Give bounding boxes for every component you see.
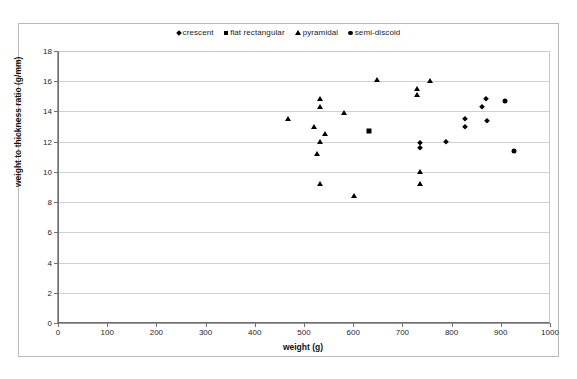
- y-tick-mark: [54, 51, 58, 52]
- y-tick-mark: [54, 172, 58, 173]
- data-point-pyramidal: [285, 116, 291, 121]
- y-tick-label: 4: [26, 258, 52, 267]
- data-point-flat-rectangular: [367, 129, 372, 134]
- x-tick-label: 200: [150, 328, 163, 337]
- x-tick-label: 900: [494, 328, 507, 337]
- y-tick-label: 18: [26, 47, 52, 56]
- x-tick-mark: [206, 323, 207, 327]
- data-point-crescent: [462, 116, 468, 122]
- y-tick-label: 6: [26, 228, 52, 237]
- legend-item-semi-discoid: semi-discoid: [348, 28, 400, 37]
- legend-item-crescent: crescent: [177, 28, 214, 37]
- y-tick-mark: [54, 232, 58, 233]
- y-tick-mark: [54, 142, 58, 143]
- y-tick-label: 14: [26, 107, 52, 116]
- legend-label: flat rectangular: [228, 28, 285, 37]
- grid-line: [58, 263, 550, 264]
- y-tick-mark: [54, 202, 58, 203]
- data-point-pyramidal: [427, 78, 433, 83]
- data-point-pyramidal: [314, 151, 320, 156]
- y-tick-mark: [54, 263, 58, 264]
- x-tick-label: 0: [56, 328, 60, 337]
- grid-line: [58, 142, 550, 143]
- grid-line: [58, 51, 550, 52]
- grid-line: [58, 172, 550, 173]
- plot-border: [58, 51, 550, 323]
- y-axis-title: weight to thickness ratio (g/mm): [13, 57, 23, 187]
- data-point-crescent: [417, 145, 423, 151]
- data-point-pyramidal: [417, 181, 423, 186]
- x-tick-mark: [501, 323, 502, 327]
- x-tick-label: 800: [445, 328, 458, 337]
- data-point-crescent: [484, 117, 490, 123]
- chart-figure: crescentflat rectangularpyramidalsemi-di…: [18, 23, 559, 357]
- grid-line: [58, 232, 550, 233]
- chart-legend: crescentflat rectangularpyramidalsemi-di…: [19, 28, 558, 37]
- data-point-pyramidal: [317, 96, 323, 101]
- legend-item-pyramidal: pyramidal: [295, 28, 339, 37]
- legend-label: pyramidal: [301, 28, 339, 37]
- x-tick-mark: [550, 323, 551, 327]
- x-tick-label: 100: [101, 328, 114, 337]
- x-axis-title: weight (g): [57, 342, 549, 352]
- data-point-pyramidal: [341, 110, 347, 115]
- data-point-pyramidal: [414, 92, 420, 97]
- data-point-pyramidal: [317, 104, 323, 109]
- y-tick-label: 16: [26, 77, 52, 86]
- data-point-pyramidal: [322, 131, 328, 136]
- data-point-semi-discoid: [512, 148, 517, 153]
- data-point-pyramidal: [311, 124, 317, 129]
- x-tick-mark: [255, 323, 256, 327]
- data-point-crescent: [443, 139, 449, 145]
- data-point-pyramidal: [351, 193, 357, 198]
- x-tick-mark: [156, 323, 157, 327]
- grid-line: [58, 293, 550, 294]
- y-tick-label: 0: [26, 319, 52, 328]
- grid-line: [58, 202, 550, 203]
- y-tick-label: 10: [26, 167, 52, 176]
- data-point-crescent: [462, 123, 468, 129]
- x-tick-label: 600: [347, 328, 360, 337]
- x-tick-label: 300: [199, 328, 212, 337]
- y-tick-mark: [54, 111, 58, 112]
- triangle-marker-icon: [295, 30, 301, 35]
- data-point-crescent: [483, 96, 489, 102]
- x-tick-label: 700: [396, 328, 409, 337]
- legend-item-flat-rectangular: flat rectangular: [224, 28, 285, 37]
- data-point-crescent: [479, 104, 485, 110]
- data-point-pyramidal: [414, 86, 420, 91]
- y-tick-mark: [54, 81, 58, 82]
- y-tick-mark: [54, 293, 58, 294]
- data-point-pyramidal: [317, 181, 323, 186]
- x-tick-mark: [452, 323, 453, 327]
- y-tick-label: 2: [26, 288, 52, 297]
- data-point-semi-discoid: [502, 98, 507, 103]
- x-tick-label: 500: [297, 328, 310, 337]
- x-tick-label: 1000: [541, 328, 559, 337]
- data-point-pyramidal: [317, 139, 323, 144]
- y-tick-label: 12: [26, 137, 52, 146]
- grid-line: [58, 111, 550, 112]
- legend-label: crescent: [181, 28, 214, 37]
- x-tick-mark: [304, 323, 305, 327]
- x-tick-label: 400: [248, 328, 261, 337]
- x-tick-mark: [353, 323, 354, 327]
- x-tick-mark: [107, 323, 108, 327]
- data-point-pyramidal: [374, 77, 380, 82]
- x-tick-mark: [402, 323, 403, 327]
- y-tick-label: 8: [26, 198, 52, 207]
- plot-area: 024681012141618 010020030040050060070080…: [57, 51, 550, 324]
- legend-label: semi-discoid: [353, 28, 401, 37]
- x-tick-mark: [58, 323, 59, 327]
- data-point-pyramidal: [417, 169, 423, 174]
- grid-line: [58, 81, 550, 82]
